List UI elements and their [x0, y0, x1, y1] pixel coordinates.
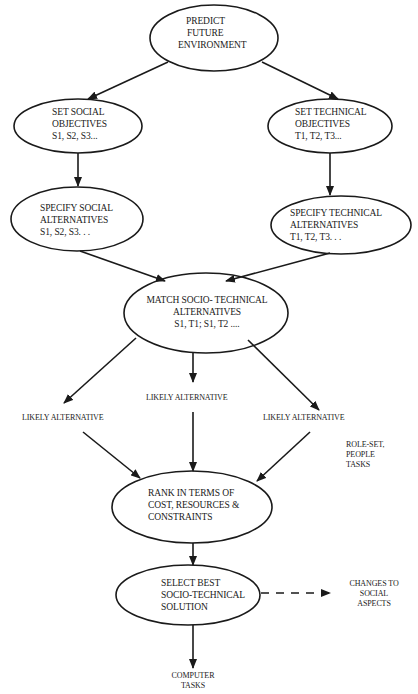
node-select-line-2: SOCIO-TECHNICAL — [161, 589, 245, 601]
label-role-set: ROLE-SET, PEOPLE TASKS — [346, 440, 384, 470]
node-rank-line-1: RANK IN TERMS OF — [148, 487, 239, 499]
node-rank-line-2: COST, RESOURCES & — [148, 499, 239, 511]
node-rank: RANK IN TERMS OF COST, RESOURCES & CONST… — [148, 487, 239, 523]
node-specify-technical: SPECIFY TECHNICAL ALTERNATIVES T1, T2, T… — [290, 207, 382, 243]
edge-likely-left-to-rank — [83, 432, 140, 478]
node-predict-line-1: PREDICT — [186, 15, 247, 27]
node-set-social-line-3: S1, S2, S3... — [52, 130, 107, 142]
label-changes-line-3: ASPECTS — [338, 599, 410, 609]
edge-match-to-likely-left — [64, 338, 136, 403]
node-specify-social-line-2: ALTERNATIVES — [40, 214, 113, 226]
label-role-set-line-2: PEOPLE — [346, 450, 384, 460]
node-set-technical-line-1: SET TECHNICAL — [295, 106, 366, 118]
label-changes-line-1: CHANGES TO — [338, 579, 410, 589]
edge-specify-technical-to-match — [226, 253, 330, 281]
node-specify-social-line-3: S1, S2, S3. . . — [40, 226, 113, 238]
label-role-set-line-1: ROLE-SET, — [346, 440, 384, 450]
label-likely-alternative-right: LIKELY ALTERNATIVE — [263, 413, 344, 423]
node-predict: PREDICT FUTURE ENVIRONMENT — [186, 15, 247, 51]
label-computer-tasks: COMPUTER TASKS — [163, 671, 223, 691]
node-specify-technical-line-2: ALTERNATIVES — [290, 219, 382, 231]
node-select: SELECT BEST SOCIO-TECHNICAL SOLUTION — [161, 577, 245, 613]
node-match-line-2: ALTERNATIVES — [126, 306, 288, 318]
edge-likely-right-to-rank — [257, 432, 310, 481]
edge-match-to-likely-right — [248, 340, 319, 410]
node-specify-technical-line-1: SPECIFY TECHNICAL — [290, 207, 382, 219]
label-changes-line-2: SOCIAL — [338, 589, 410, 599]
node-select-line-1: SELECT BEST — [161, 577, 245, 589]
node-set-social-line-1: SET SOCIAL — [52, 106, 107, 118]
node-set-technical: SET TECHNICAL OBJECTIVES T1, T2, T3... — [295, 106, 366, 142]
node-predict-line-2: FUTURE — [186, 27, 247, 39]
label-changes-to-social-aspects: CHANGES TO SOCIAL ASPECTS — [338, 579, 410, 609]
node-set-social-line-2: OBJECTIVES — [52, 118, 107, 130]
label-computer-tasks-line-2: TASKS — [163, 681, 223, 691]
node-specify-social: SPECIFY SOCIAL ALTERNATIVES S1, S2, S3. … — [40, 202, 113, 238]
node-predict-line-3: ENVIRONMENT — [178, 39, 247, 51]
edge-predict-to-set-social — [88, 62, 168, 99]
node-specify-technical-line-3: T1, T2, T3. . . — [290, 231, 382, 243]
label-likely-alternative-left: LIKELY ALTERNATIVE — [22, 413, 103, 423]
label-computer-tasks-line-1: COMPUTER — [163, 671, 223, 681]
node-match-line-3: S1, T1; S1, T2 .... — [126, 318, 288, 330]
node-set-technical-line-2: OBJECTIVES — [295, 118, 366, 130]
node-match-line-1: MATCH SOCIO- TECHNICAL — [126, 294, 288, 306]
node-set-technical-line-3: T1, T2, T3... — [295, 130, 366, 142]
node-set-social: SET SOCIAL OBJECTIVES S1, S2, S3... — [52, 106, 107, 142]
node-rank-line-3: CONSTRAINTS — [148, 511, 239, 523]
node-specify-social-line-1: SPECIFY SOCIAL — [40, 202, 113, 214]
node-select-line-3: SOLUTION — [161, 601, 245, 613]
edge-predict-to-set-technical — [262, 62, 338, 99]
label-role-set-line-3: TASKS — [346, 460, 384, 470]
edge-specify-social-to-match — [80, 251, 165, 281]
label-likely-alternative-center: LIKELY ALTERNATIVE — [146, 393, 227, 403]
node-match: MATCH SOCIO- TECHNICAL ALTERNATIVES S1, … — [126, 294, 288, 330]
